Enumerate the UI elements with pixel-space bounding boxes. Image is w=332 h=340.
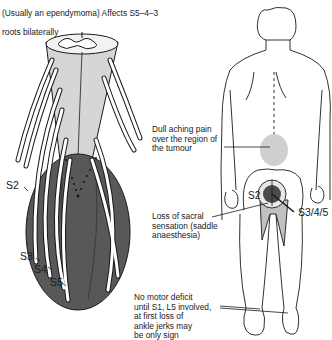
root-label-s4: S4 [34,264,47,275]
annotation-sensation: Loss of sacral sensation (saddle anaesth… [152,212,218,241]
annotation-motor: No motor deficit until S1, L5 involved, … [134,293,211,340]
caption: (Usually an ependymoma) Affects S5–4–3 r… [2,0,158,37]
diagram-canvas [0,0,332,340]
dermatome-label-s345: S3/4/5 [298,207,328,218]
root-label-s5: S5 [50,277,63,288]
caption-line-1: (Usually an ependymoma) Affects S5–4–3 [2,8,158,18]
root-label-s2: S2 [6,180,19,191]
caption-line-2: roots bilaterally [2,27,58,37]
annotation-pain: Dull aching pain over the region of the … [152,125,217,154]
dermatome-label-s2: S2 [248,190,260,201]
body-figure-posterior [221,7,330,335]
root-label-s3: S3 [20,251,33,262]
